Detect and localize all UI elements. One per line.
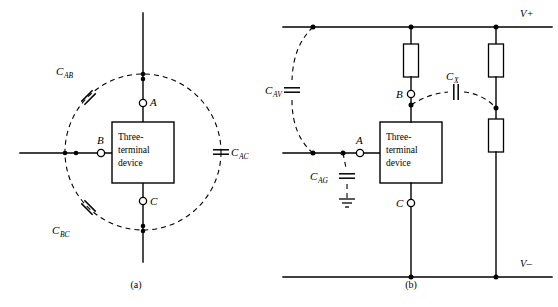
- panel-b-resistor-right-lower: [489, 119, 504, 152]
- panel-a-junction-bottom: [141, 229, 146, 234]
- panel-a-caption: (a): [130, 279, 141, 291]
- panel-a-junction-left-inner: [74, 151, 79, 156]
- panel-a-terminal-b-marker[interactable]: [97, 149, 104, 156]
- panel-b-junction-vminus-right: [494, 275, 499, 280]
- panel-a-device-line3: device: [118, 158, 143, 168]
- panel-a-capacitor-cab: [81, 90, 95, 104]
- panel-b-device-line2: terminal: [386, 145, 418, 155]
- panel-b-ground-symbol: [339, 199, 355, 207]
- panel-a-device-line2: terminal: [118, 145, 150, 155]
- panel-b-capacitor-cav-sub: AV: [272, 90, 283, 99]
- panel-b-capacitor-cag: [339, 174, 355, 178]
- panel-a-terminal-a-label: A: [149, 96, 157, 108]
- panel-a-capacitor-cbc-label: C: [52, 224, 60, 236]
- panel-a-junction-top-inner: [141, 77, 146, 82]
- panel-b-cav-dashed-path: [292, 27, 313, 80]
- panel-b-rail-v-minus-label: V–: [520, 258, 532, 269]
- panel-a-terminal-b-label: B: [97, 134, 104, 146]
- panel-a-terminal-c-marker[interactable]: [139, 197, 146, 204]
- panel-b-caption: (b): [405, 279, 417, 291]
- panel-b-cag-dashed-upper: [343, 153, 346, 168]
- panel-b-device-line3: device: [386, 158, 411, 168]
- panel-a: Three- terminal device A B C: [20, 13, 250, 291]
- panel-b-terminal-a-label: A: [355, 134, 363, 146]
- panel-b-resistor-b-pullup: [404, 44, 419, 77]
- panel-b-capacitor-cav-label: C: [265, 84, 273, 96]
- panel-b-cav-dashed-path-lower: [292, 100, 313, 153]
- panel-b: V+ V– Three- terminal device B C: [265, 8, 552, 291]
- figure-canvas: Three- terminal device A B C: [0, 0, 558, 307]
- panel-b-junction-vplus-right: [494, 25, 499, 30]
- panel-b-cx-dashed-right: [464, 92, 496, 108]
- panel-b-device-line1: Three-: [386, 132, 411, 142]
- panel-a-junction-bottom-inner: [141, 224, 146, 229]
- panel-b-junction-vplus-b: [409, 25, 414, 30]
- panel-b-capacitor-cav: [284, 88, 300, 92]
- panel-b-cx-dashed-left: [411, 92, 448, 105]
- panel-a-capacitor-cab-label: C: [56, 65, 64, 77]
- panel-b-terminal-a-marker[interactable]: [356, 149, 363, 156]
- panel-b-capacitor-cag-sub: AG: [317, 176, 329, 185]
- panel-b-resistor-right-upper: [489, 44, 504, 77]
- panel-a-capacitor-cac-label: C: [231, 146, 239, 158]
- panel-a-junction-top: [141, 72, 146, 77]
- panel-a-terminal-a-marker[interactable]: [139, 99, 146, 106]
- panel-b-capacitor-cx-sub: X: [453, 76, 459, 85]
- panel-a-capacitor-cab-sub: AB: [63, 71, 74, 80]
- panel-a-device-line1: Three-: [118, 132, 143, 142]
- panel-b-terminal-c-label: C: [396, 197, 404, 209]
- panel-a-terminal-c-label: C: [150, 195, 158, 207]
- panel-b-terminal-c-marker[interactable]: [407, 199, 414, 206]
- panel-b-capacitor-cag-label: C: [310, 170, 318, 182]
- panel-b-capacitor-cx: [454, 84, 458, 100]
- panel-a-capacitor-cbc-sub: BC: [60, 230, 71, 239]
- panel-b-capacitor-cx-label: C: [446, 70, 454, 82]
- panel-b-rail-v-plus-label: V+: [520, 8, 534, 19]
- panel-a-capacitor-cac-sub: AC: [238, 152, 250, 161]
- circuit-figure: Three- terminal device A B C: [0, 0, 558, 307]
- panel-b-terminal-b-label: B: [396, 88, 403, 100]
- panel-b-terminal-b-marker[interactable]: [407, 90, 414, 97]
- panel-a-junction-left: [63, 151, 68, 156]
